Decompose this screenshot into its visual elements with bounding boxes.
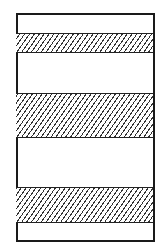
hatched-band-top [16,33,153,53]
hatched-band-middle [16,93,153,138]
hatched-band-bottom [16,187,153,223]
